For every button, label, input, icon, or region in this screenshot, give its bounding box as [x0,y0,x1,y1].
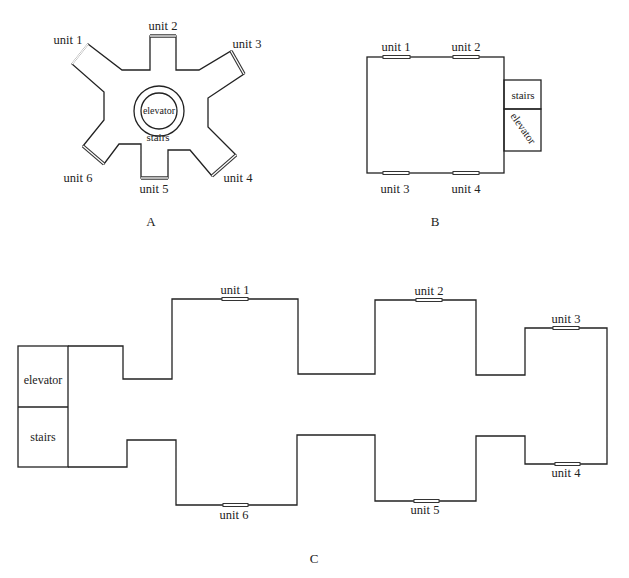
diagram-c-door-unit-1 [222,298,248,301]
diagram-c-caption: C [310,551,319,566]
diagram-c-door-unit-2 [416,299,442,302]
diagram-b-door-unit-4 [453,172,479,175]
diagram-b-unit-4-label: unit 4 [452,182,482,196]
diagram-b: stairs elevator unit 1 unit 2 unit 3 uni… [367,40,541,229]
diagram-b-outline [367,57,504,173]
diagram-c-unit-6-label: unit 6 [220,508,249,522]
diagram-b-door-unit-3 [383,172,409,175]
diagram-c-unit-5-label: unit 5 [411,503,440,517]
diagram-a-unit-3-label: unit 3 [233,37,262,51]
diagram-a-unit-5-label: unit 5 [140,182,169,196]
diagram-a-elevator-label: elevator [143,105,176,116]
diagram-a-unit-1-label: unit 1 [54,33,83,47]
diagram-c-unit-3-label: unit 3 [552,312,581,326]
diagram-a-caption: A [146,214,156,229]
diagram-b-door-unit-2 [453,56,479,59]
diagram-a-unit-2-label: unit 2 [149,19,178,33]
diagram-b-door-unit-1 [383,56,410,59]
diagram-c-unit-2-label: unit 2 [415,284,444,298]
diagram-a-unit-6-label: unit 6 [64,171,93,185]
diagram-b-caption: B [431,214,440,229]
diagram-b-stairs-label: stairs [511,89,534,101]
diagram-c: elevator stairs unit 1 unit 2 unit 3 uni… [18,283,607,566]
diagram-c-unit-4-label: unit 4 [552,466,582,480]
diagram-c-elevator-label: elevator [24,373,63,387]
diagram-c-unit-1-label: unit 1 [221,283,250,297]
diagram-c-door-unit-3 [553,327,579,330]
floor-plan-svg: elevator stairs unit 1 unit 2 unit 3 uni… [0,0,629,578]
diagram-a: elevator stairs unit 1 unit 2 unit 3 uni… [54,19,262,229]
diagram-a-stairs-label: stairs [146,131,169,143]
diagram-c-door-unit-6 [223,504,248,507]
floor-plan-figure: elevator stairs unit 1 unit 2 unit 3 uni… [0,0,629,578]
diagram-c-outline [68,299,607,505]
diagram-a-unit-4-label: unit 4 [224,171,254,185]
diagram-b-elevator-label: elevator [508,110,538,146]
diagram-b-unit-2-label: unit 2 [452,40,481,54]
diagram-b-unit-3-label: unit 3 [381,182,410,196]
diagram-b-unit-1-label: unit 1 [382,40,411,54]
diagram-c-stairs-label: stairs [30,430,56,444]
